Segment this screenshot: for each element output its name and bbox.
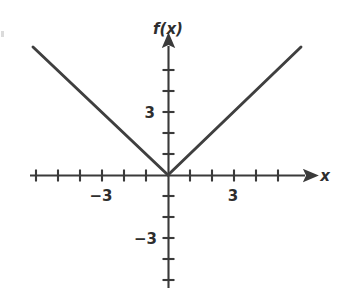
y-axis-group — [163, 46, 175, 288]
y-tick-label-positive-3: 3 — [145, 104, 155, 122]
y-axis-label: f(x) — [153, 20, 183, 38]
x-tick-label-negative-3: −3 — [89, 187, 112, 205]
x-axis-label: x — [319, 167, 331, 185]
coordinate-plane: f(x) x 3 −3 −3 3 — [0, 0, 337, 302]
y-tick-label-negative-3: −3 — [134, 230, 157, 248]
graph-figure: f(x) x 3 −3 −3 3 — [0, 0, 337, 302]
x-tick-label-positive-3: 3 — [228, 187, 238, 205]
